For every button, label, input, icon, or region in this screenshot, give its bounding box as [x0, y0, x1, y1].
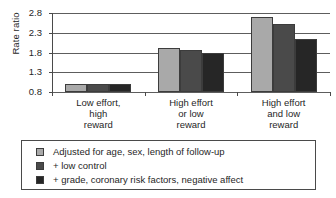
y-tick-label: 1.3: [2, 67, 42, 77]
bar-group: [52, 13, 145, 92]
bar: [65, 84, 87, 92]
category-label: High effortor lowreward: [145, 97, 238, 130]
x-tick-mark: [145, 92, 146, 96]
legend-item: + grade, coronary risk factors, negative…: [36, 173, 315, 187]
bar: [295, 39, 317, 92]
y-tick-label: 2.8: [2, 8, 42, 18]
legend-swatch: [36, 176, 44, 184]
category-label: High effortand lowreward: [237, 97, 330, 130]
x-tick-mark: [237, 92, 238, 96]
legend: Adjusted for age, sex, length of follow-…: [21, 140, 316, 190]
legend-swatch: [36, 162, 44, 170]
bar: [158, 48, 180, 92]
legend-label: Adjusted for age, sex, length of follow-…: [53, 147, 225, 157]
category-label: Low effort,highreward: [52, 97, 145, 130]
x-tick-mark: [330, 92, 331, 96]
bar: [273, 24, 295, 92]
bar-group: [237, 13, 330, 92]
y-tick-label: 2.3: [2, 28, 42, 38]
legend-item: + low control: [36, 159, 315, 173]
rate-ratio-bar-chart: Rate ratio 0.81.31.82.32.8 Low effort,hi…: [0, 0, 336, 198]
x-tick-mark: [52, 92, 53, 96]
legend-item: Adjusted for age, sex, length of follow-…: [36, 145, 315, 159]
legend-swatch: [36, 148, 44, 156]
x-axis-category-labels: Low effort,highrewardHigh effortor lowre…: [52, 97, 330, 130]
plot-area: 0.81.31.82.32.8: [52, 13, 330, 92]
y-tick-label: 1.8: [2, 48, 42, 58]
bar: [251, 17, 273, 92]
bar: [109, 84, 131, 92]
bar-group: [145, 13, 238, 92]
y-tick-label: 0.8: [2, 87, 42, 97]
bar: [202, 53, 224, 92]
legend-label: + grade, coronary risk factors, negative…: [53, 175, 243, 185]
legend-label: + low control: [53, 161, 107, 171]
bar-groups: [52, 13, 330, 92]
gridline: [52, 92, 330, 93]
bar: [180, 50, 202, 92]
bar: [87, 84, 109, 92]
